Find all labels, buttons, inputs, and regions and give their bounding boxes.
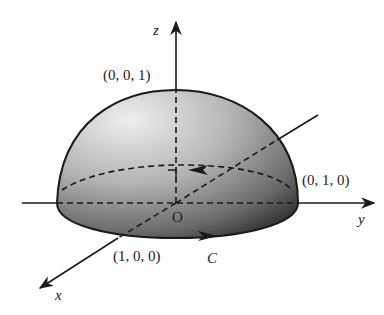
z-axis-label: z xyxy=(152,22,159,38)
x-axis-negative xyxy=(277,115,318,140)
x-axis-label: x xyxy=(54,287,62,303)
point-y-label: (0, 1, 0) xyxy=(302,172,350,189)
y-axis-label: y xyxy=(356,211,365,227)
x-axis xyxy=(40,238,118,288)
curve-label: C xyxy=(207,250,218,266)
hemisphere-diagram: z y x O (0, 0, 1) (0, 1, 0) (1, 0, 0) C xyxy=(0,0,384,315)
point-x-label: (1, 0, 0) xyxy=(113,248,161,265)
origin-label: O xyxy=(172,209,183,225)
point-top-label: (0, 0, 1) xyxy=(103,67,151,84)
